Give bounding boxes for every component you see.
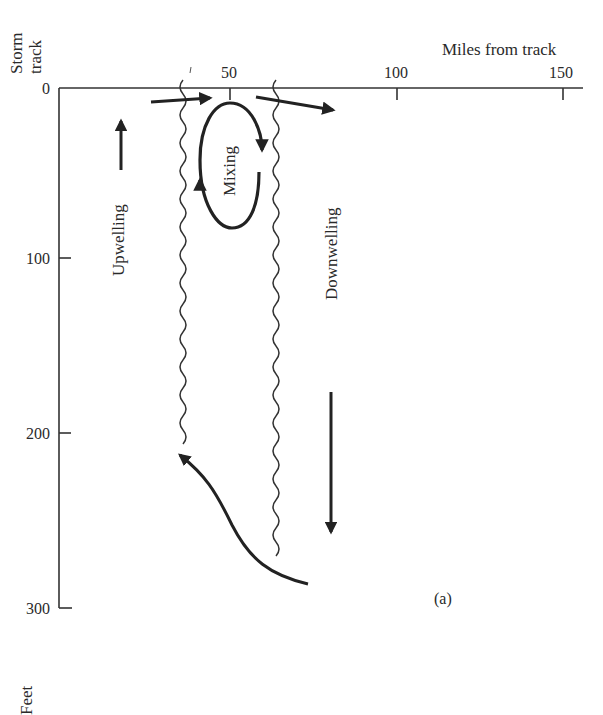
storm-track-label: Storm track [7,32,45,74]
wavy-boundary-right [273,80,279,556]
diagram-canvas [0,0,603,715]
storm-track-line-2: track [26,32,45,74]
y-axis-title: Feet [18,686,35,715]
y-tick-label-200: 200 [14,426,50,442]
upwelling-label: Upwelling [110,204,127,276]
storm-upwelling-diagram: Storm track Miles from track 50 100 150 … [0,0,603,715]
stray-mark [190,67,191,73]
y-tick-label-100: 100 [14,251,50,267]
wavy-boundary-left [180,80,186,444]
mixing-label: Mixing [221,146,238,196]
storm-track-line-1: Storm [7,32,26,74]
y-tick-label-300: 300 [14,601,50,617]
downwelling-label: Downwelling [323,207,340,300]
y-tick-label-0: 0 [14,81,50,97]
x-tick-label-50: 50 [221,65,237,81]
outflow-arrow [256,97,333,110]
panel-label: (a) [434,591,452,607]
mixing-loop-arrow [230,103,262,150]
inflow-arrow [151,98,210,102]
return-flow-arrow [180,455,308,584]
x-tick-label-100: 100 [384,65,408,81]
x-tick-label-150: 150 [549,65,573,81]
axes [59,88,583,608]
x-axis-title: Miles from track [442,41,556,58]
